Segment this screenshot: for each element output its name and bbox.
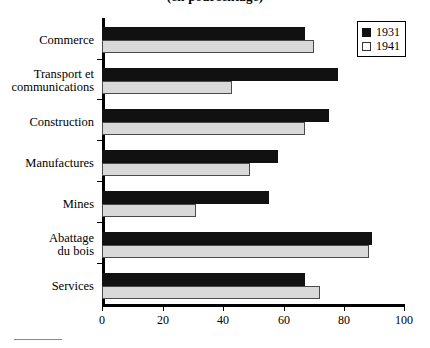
- bar-1941: [102, 204, 196, 217]
- chart-title: (en pourcentage): [0, 0, 430, 5]
- y-axis-tick: [97, 181, 103, 182]
- legend-label-1931: 1931: [376, 26, 400, 38]
- bar-1931: [102, 27, 305, 40]
- x-axis-tick-label: 60: [264, 313, 304, 328]
- x-axis-tick: [404, 307, 405, 311]
- y-axis-tick: [97, 59, 103, 60]
- x-axis-tick: [284, 307, 285, 311]
- legend-entry-1931[interactable]: 1931: [362, 25, 400, 39]
- bar-1941: [102, 245, 369, 258]
- bar-1931: [102, 232, 372, 245]
- category-label-abattage: Abattage du bois: [49, 232, 94, 258]
- y-axis-tick: [97, 222, 103, 223]
- bar-1931: [102, 109, 329, 122]
- category-label-transport: Transport et communications: [11, 68, 94, 94]
- category-label-construction: Construction: [29, 116, 94, 129]
- y-axis-tick: [97, 140, 103, 141]
- category-label-commerce: Commerce: [39, 34, 94, 47]
- y-axis-tick: [97, 99, 103, 100]
- category-label-services: Services: [52, 280, 94, 293]
- footnote-separator-rule: [14, 339, 62, 340]
- bar-1931: [102, 150, 278, 163]
- bar-1941: [102, 40, 314, 53]
- bar-1941: [102, 286, 320, 299]
- bar-1941: [102, 163, 250, 176]
- x-axis-line: [102, 304, 405, 307]
- bar-1941: [102, 81, 232, 94]
- x-axis-tick: [223, 307, 224, 311]
- x-axis-tick-label: 100: [384, 313, 424, 328]
- category-label-mines: Mines: [63, 198, 94, 211]
- plot-area: 0 20 40 60 80 100: [102, 18, 405, 304]
- y-axis-tick: [97, 263, 103, 264]
- bar-1931: [102, 68, 338, 81]
- legend-label-1941: 1941: [376, 40, 400, 52]
- x-axis-tick-label: 0: [82, 313, 122, 328]
- bar-1931: [102, 191, 269, 204]
- x-axis-tick-label: 80: [324, 313, 364, 328]
- legend: 1931 1941: [357, 21, 406, 57]
- legend-swatch-open-square-icon: [362, 42, 371, 51]
- x-axis-tick-label: 20: [143, 313, 183, 328]
- legend-entry-1941[interactable]: 1941: [362, 39, 400, 53]
- x-axis-tick: [163, 307, 164, 311]
- bar-1931: [102, 273, 305, 286]
- x-axis-tick: [102, 307, 103, 311]
- legend-swatch-filled-square-icon: [362, 28, 371, 37]
- category-label-manufactures: Manufactures: [25, 157, 94, 170]
- x-axis-tick-label: 40: [203, 313, 243, 328]
- x-axis-tick: [344, 307, 345, 311]
- bar-1941: [102, 122, 305, 135]
